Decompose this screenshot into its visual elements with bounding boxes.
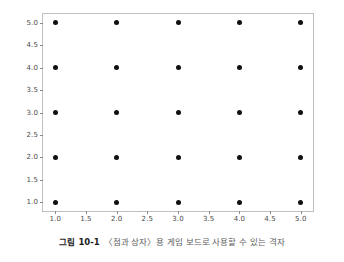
x-tick-label: 2.5 (142, 215, 153, 223)
plot-axes: 1.01.52.02.53.03.54.04.55.0 1.01.52.02.5… (42, 13, 314, 212)
data-point (237, 200, 242, 205)
x-tick-mark (147, 211, 148, 214)
figure: 1.01.52.02.53.03.54.04.55.0 1.01.52.02.5… (0, 0, 344, 262)
data-point (176, 200, 181, 205)
data-point (237, 65, 242, 70)
y-tick-label: 1.0 (27, 198, 38, 206)
y-tick-label: 2.5 (27, 131, 38, 139)
data-point (176, 20, 181, 25)
y-tick-mark (40, 180, 43, 181)
data-point (298, 110, 303, 115)
caption-label: 그림 10-1 (59, 237, 99, 247)
x-tick-mark (86, 211, 87, 214)
y-tick-label: 3.5 (27, 86, 38, 94)
y-tick-label: 3.0 (27, 109, 38, 117)
data-point (114, 200, 119, 205)
x-tick-label: 2.0 (111, 215, 122, 223)
x-tick-mark (209, 211, 210, 214)
y-tick-label: 4.5 (27, 41, 38, 49)
data-point (53, 155, 58, 160)
x-tick-label: 3.5 (203, 215, 214, 223)
scatter-plot-area (43, 14, 313, 211)
data-point (53, 200, 58, 205)
caption-text: 〈점과 상자〉용 게임 보드로 사용할 수 있는 격자 (104, 237, 285, 247)
y-tick-mark (40, 113, 43, 114)
y-tick-label: 5.0 (27, 19, 38, 27)
data-point (298, 155, 303, 160)
data-point (53, 110, 58, 115)
y-tick-mark (40, 23, 43, 24)
data-point (176, 110, 181, 115)
y-tick-mark (40, 135, 43, 136)
data-point (237, 155, 242, 160)
x-tick-mark (117, 211, 118, 214)
x-tick-label: 1.5 (80, 215, 91, 223)
y-tick-mark (40, 90, 43, 91)
data-point (176, 65, 181, 70)
data-point (114, 65, 119, 70)
x-tick-mark (239, 211, 240, 214)
y-tick-mark (40, 68, 43, 69)
y-tick-mark (40, 202, 43, 203)
figure-caption: 그림 10-1〈점과 상자〉용 게임 보드로 사용할 수 있는 격자 (0, 236, 344, 249)
y-tick-label: 4.0 (27, 64, 38, 72)
y-tick-label: 2.0 (27, 153, 38, 161)
data-point (298, 65, 303, 70)
x-tick-label: 3.0 (172, 215, 183, 223)
x-tick-label: 4.0 (234, 215, 245, 223)
y-tick-mark (40, 157, 43, 158)
data-point (176, 155, 181, 160)
data-point (237, 110, 242, 115)
y-tick-mark (40, 45, 43, 46)
x-tick-mark (178, 211, 179, 214)
data-point (114, 110, 119, 115)
data-point (53, 65, 58, 70)
data-point (298, 20, 303, 25)
x-tick-mark (301, 211, 302, 214)
x-tick-mark (55, 211, 56, 214)
x-tick-label: 4.5 (264, 215, 275, 223)
data-point (53, 20, 58, 25)
x-tick-label: 1.0 (50, 215, 61, 223)
data-point (237, 20, 242, 25)
data-point (114, 155, 119, 160)
y-tick-label: 1.5 (27, 176, 38, 184)
x-tick-mark (270, 211, 271, 214)
data-point (298, 200, 303, 205)
data-point (114, 20, 119, 25)
x-tick-label: 5.0 (295, 215, 306, 223)
